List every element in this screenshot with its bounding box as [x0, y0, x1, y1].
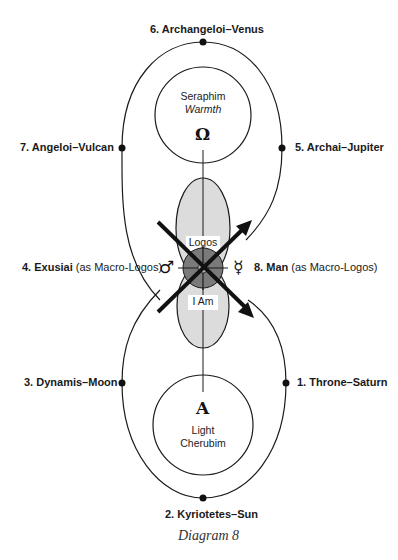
- label-7: 7. Angeloi–Vulcan: [20, 141, 114, 153]
- dot-2: [200, 495, 207, 502]
- alpha-symbol: A: [196, 398, 209, 418]
- logos-label: Logos: [183, 236, 223, 248]
- label-6: 6. Archangeloi–Venus: [150, 23, 264, 35]
- dot-7: [119, 145, 126, 152]
- label-1: 1. Throne–Saturn: [297, 376, 387, 388]
- i-am-label: I Am: [183, 295, 223, 307]
- mercury-icon: ☿: [233, 259, 243, 276]
- label-2: 2. Kyriotetes–Sun: [165, 508, 258, 520]
- dot-3: [119, 380, 126, 387]
- seraphim-circle: [155, 67, 251, 163]
- warmth-label: Warmth: [173, 103, 233, 115]
- diagram-canvas: [0, 0, 398, 560]
- dot-1: [283, 380, 290, 387]
- label-4: 4. Exusiai (as Macro-Logos): [22, 261, 162, 273]
- dot-5: [279, 145, 286, 152]
- diagram-caption: Diagram 8: [178, 528, 239, 544]
- label-3: 3. Dynamis–Moon: [24, 376, 118, 388]
- label-5: 5. Archai–Jupiter: [295, 141, 384, 153]
- dot-6: [200, 39, 207, 46]
- omega-symbol: Ω: [195, 124, 210, 144]
- light-label: Light: [173, 424, 233, 436]
- cherubim-label: Cherubim: [173, 437, 233, 449]
- label-8: 8. Man (as Macro-Logos): [254, 261, 378, 273]
- seraphim-label: Seraphim: [173, 90, 233, 102]
